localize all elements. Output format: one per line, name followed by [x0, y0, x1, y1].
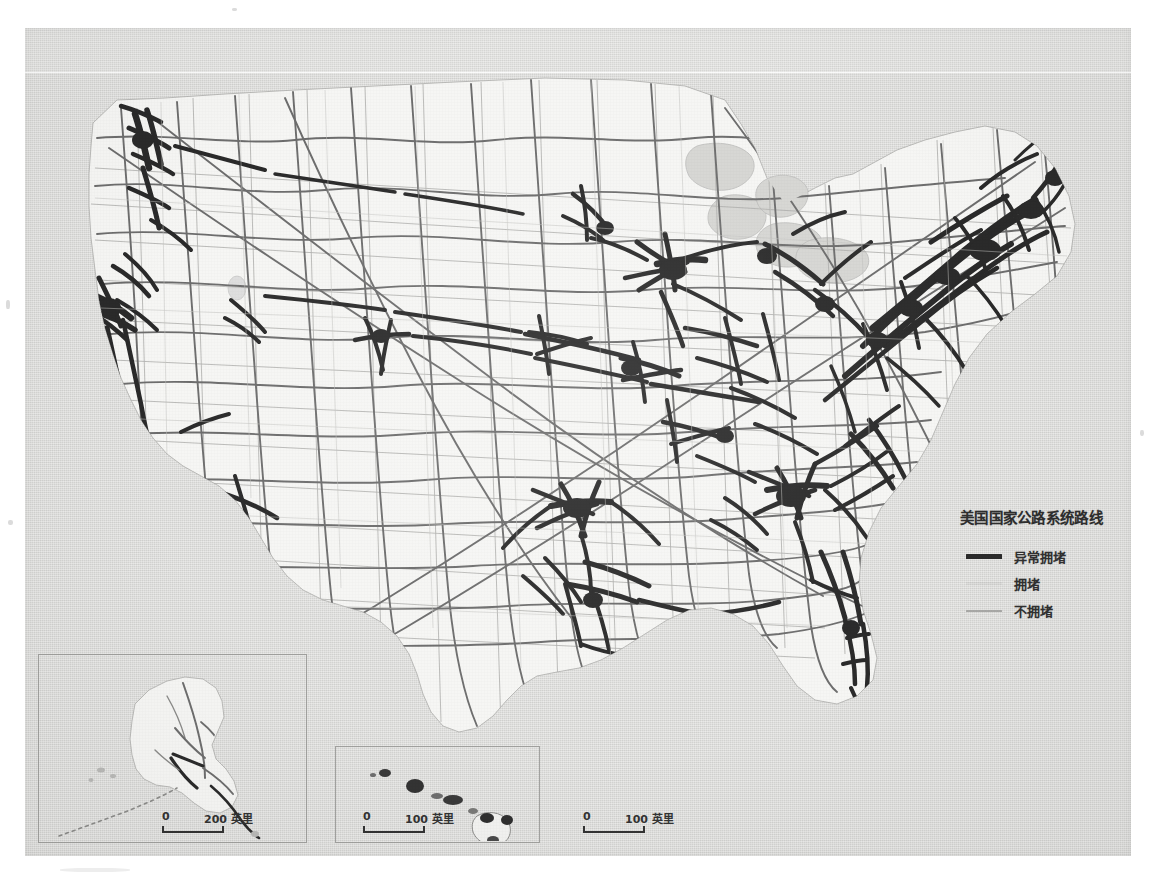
legend-label-congested: 拥堵 — [1006, 574, 1040, 593]
great-salt-lake — [228, 276, 246, 300]
legend-swatch-extreme — [960, 554, 1006, 559]
scalebar-value-label: 100 英里 — [405, 810, 454, 826]
scalebar-value-label: 200 英里 — [204, 810, 253, 826]
scalebar-zero-label: 0 — [363, 810, 371, 823]
scalebar-bar — [162, 826, 224, 833]
usa-landmass — [89, 78, 1075, 732]
legend-label-extreme: 异常拥堵 — [1006, 547, 1066, 566]
scalebar-hawaii: 0 100 英里 — [363, 810, 493, 833]
scan-artifact — [60, 868, 130, 872]
scalebar-bar — [363, 826, 425, 833]
scalebar-zero-label: 0 — [162, 810, 170, 823]
legend-item-congested[interactable]: 拥堵 — [960, 570, 1153, 597]
legend-item-uncongested[interactable]: 不拥堵 — [960, 597, 1153, 624]
scalebar-value-label: 100 英里 — [625, 810, 674, 826]
legend-item-extreme[interactable]: 异常拥堵 — [960, 543, 1153, 570]
scalebar-bar — [583, 826, 645, 833]
legend-swatch-uncongested — [960, 610, 1006, 612]
legend-swatch-congested — [960, 582, 1006, 585]
scanned-page: 0 200 英里 0 100 英里 0 100 英里 美国国家公路系统路线 — [0, 0, 1153, 883]
conterminous-us-panel — [87, 78, 1075, 736]
scan-artifact — [8, 520, 13, 525]
legend-title: 美国国家公路系统路线 — [960, 506, 1153, 527]
scanned-sheet: 0 200 英里 0 100 英里 0 100 英里 美国国家公路系统路线 — [25, 28, 1131, 856]
scalebar-alaska: 0 200 英里 — [162, 810, 292, 833]
legend-label-uncongested: 不拥堵 — [1006, 601, 1053, 620]
scan-artifact — [6, 300, 10, 309]
scalebar-zero-label: 0 — [583, 810, 591, 823]
scan-artifact — [232, 8, 237, 11]
scalebar-main-map: 0 100 英里 — [583, 810, 713, 833]
scan-artifact — [1140, 430, 1144, 436]
map-legend: 美国国家公路系统路线 异常拥堵 拥堵 不拥堵 — [960, 506, 1153, 624]
